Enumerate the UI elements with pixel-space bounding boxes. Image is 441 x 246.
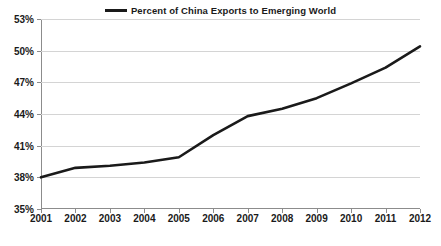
legend-entry-china-exports: Percent of China Exports to Emerging Wor… [105, 5, 336, 16]
x-axis-tick-label: 2009 [306, 213, 328, 224]
legend-label: Percent of China Exports to Emerging Wor… [131, 5, 336, 16]
x-axis-tick-label: 2002 [64, 213, 86, 224]
x-axis-tick-label: 2012 [409, 213, 431, 224]
x-axis-tick-label: 2008 [271, 213, 293, 224]
x-axis-tick-label: 2004 [133, 213, 155, 224]
x-axis-tick-label: 2006 [202, 213, 224, 224]
y-axis-tick-label: 47% [14, 77, 34, 88]
y-axis-tick-label: 44% [14, 109, 34, 120]
y-axis-tick-label: 50% [14, 45, 34, 56]
x-axis-tick-label: 2007 [237, 213, 259, 224]
x-axis-tick-label: 2001 [30, 213, 52, 224]
line-series-china-exports [41, 46, 420, 177]
chart-container: Percent of China Exports to Emerging Wor… [0, 0, 441, 246]
x-axis-tick-label: 2011 [375, 213, 397, 224]
data-series-group [41, 19, 420, 209]
chart-legend: Percent of China Exports to Emerging Wor… [0, 2, 441, 18]
y-axis-tick-label: 38% [14, 172, 34, 183]
y-axis-tick-label: 53% [14, 14, 34, 25]
y-axis-tick-label: 41% [14, 140, 34, 151]
x-axis-tick-label: 2005 [168, 213, 190, 224]
plot-area: 35%38%41%44%47%50%53% 200120022003200420… [41, 19, 420, 209]
x-axis-tick-label: 2003 [99, 213, 121, 224]
legend-line-swatch-icon [105, 9, 127, 12]
x-axis-tick-label: 2010 [340, 213, 362, 224]
